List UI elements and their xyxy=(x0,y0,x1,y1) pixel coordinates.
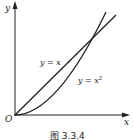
line-label: y = x xyxy=(39,58,61,67)
x-axis-label: x xyxy=(124,117,129,127)
parabola-label-base: y = x xyxy=(77,76,99,85)
parabola-label: y = x2 xyxy=(77,75,103,85)
parabola-label-exponent: 2 xyxy=(98,75,103,81)
x-axis xyxy=(14,113,130,118)
y-axis-arrow-icon xyxy=(13,1,18,9)
function-graph: y O x y = x y = x2 图 3.3.4 xyxy=(0,0,135,140)
y-axis-label: y xyxy=(4,3,11,13)
curve-line-y-equals-x xyxy=(15,15,116,115)
y-axis xyxy=(13,1,18,116)
figure-caption: 图 3.3.4 xyxy=(50,131,85,140)
origin-label: O xyxy=(5,114,13,124)
